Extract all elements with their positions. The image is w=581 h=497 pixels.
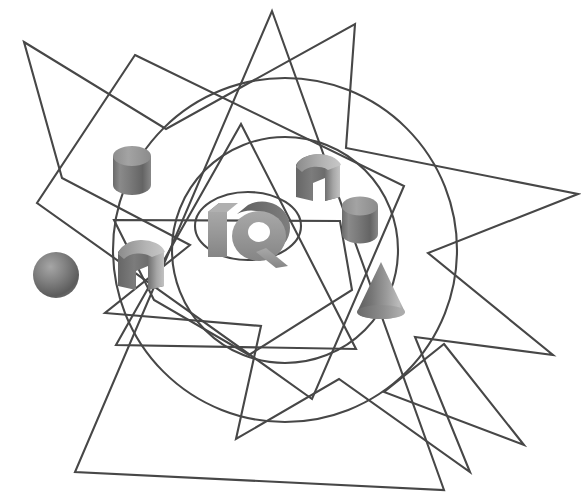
geometric-composition: IQ [0,0,581,497]
iq-logo-letter-q-counter [248,222,270,242]
cylinder-right-top [342,197,378,216]
figure-canvas: IQ [0,0,581,497]
sphere-left-body [33,252,79,298]
iq-logo: IQ [208,202,290,268]
cylinder-right [342,197,378,244]
cylinder-upper-left [113,146,151,195]
cylinder-upper-left-top [113,146,151,166]
sphere-left [33,252,79,298]
rounded-box-right [296,154,341,201]
outline-shape-group [24,11,578,490]
iq-logo-letter-i-top [208,203,238,212]
thin-wedge-triangle-outline [384,344,524,445]
iq-logo-letter-i-face [208,212,227,257]
cone-lower-right-base [357,305,405,319]
